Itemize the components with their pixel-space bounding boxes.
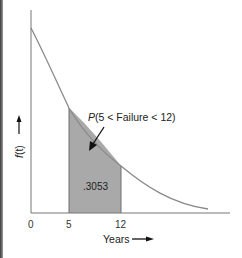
probability-annotation: P(5 < Failure < 12) [88, 111, 176, 123]
y-axis-arg: (t) [13, 145, 25, 155]
y-label-arrow-head [17, 115, 22, 122]
annotation-prefix: P [88, 111, 95, 123]
annotation-text: (5 < Failure < 12) [95, 111, 176, 123]
x-tick-12: 12 [115, 219, 126, 230]
x-axis-label: Years [103, 233, 129, 245]
x-tick-0: 0 [28, 219, 34, 230]
x-tick-5: 5 [66, 219, 72, 230]
x-label-arrow-head [146, 237, 154, 242]
area-value-label: .3053 [83, 181, 108, 192]
y-axis-label: f(t) [13, 145, 25, 158]
y-axis-fn: f [13, 155, 25, 158]
